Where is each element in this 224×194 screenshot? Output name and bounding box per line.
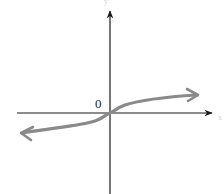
x-axis-label: x	[218, 113, 222, 122]
origin-label: 0	[95, 96, 102, 111]
y-axis-label: y	[104, 0, 108, 6]
function-graph: 0 y x	[0, 0, 224, 194]
